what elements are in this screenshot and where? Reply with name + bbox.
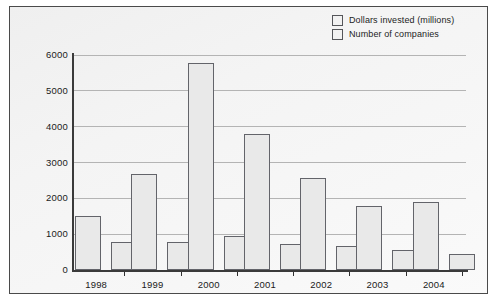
chart-frame: Dollars invested (millions) Number of co… (9, 6, 488, 294)
bar-2000-series1 (188, 63, 214, 270)
y-tick-label: 6000 (16, 49, 68, 60)
bar-2002-series1 (300, 178, 326, 270)
bar-1998-series1 (75, 216, 101, 270)
x-tick-label: 2003 (367, 279, 389, 290)
gridline (72, 126, 466, 127)
bar-2001-series1 (244, 134, 270, 270)
x-tick-label: 1999 (141, 279, 163, 290)
y-tick-label: 1000 (16, 228, 68, 239)
x-axis-tick-labels: 1998199920002001200220032004 (72, 279, 468, 293)
plot-region (72, 49, 466, 271)
chart-figure: Dollars invested (millions) Number of co… (0, 0, 504, 308)
legend-item-number-of-companies: Number of companies (332, 29, 492, 40)
x-tick-label: 2002 (310, 279, 332, 290)
plot-area (72, 55, 466, 270)
bar-2004-series2 (449, 254, 475, 270)
bar-2003-series1 (356, 206, 382, 270)
legend-item-dollars-invested: Dollars invested (millions) (332, 15, 492, 26)
y-tick-label: 4000 (16, 121, 68, 132)
chart-legend: Dollars invested (millions) Number of co… (332, 15, 492, 40)
x-tick-label: 2001 (254, 279, 276, 290)
bar-1999-series1 (131, 174, 157, 270)
legend-item-label: Dollars invested (millions) (349, 15, 454, 26)
y-axis-line (72, 53, 74, 272)
y-tick-label: 3000 (16, 157, 68, 168)
x-tick-label: 2000 (198, 279, 220, 290)
y-tick-label: 0 (16, 264, 68, 275)
y-tick-label: 5000 (16, 85, 68, 96)
x-tick-label: 1998 (85, 279, 107, 290)
x-axis-line (72, 270, 468, 272)
legend-swatch-icon (332, 15, 343, 26)
bar-2004-series1 (413, 202, 439, 270)
legend-item-label: Number of companies (349, 29, 439, 40)
gridline (72, 55, 466, 56)
x-tick-label: 2004 (423, 279, 445, 290)
legend-swatch-icon (332, 29, 343, 40)
y-tick-label: 2000 (16, 192, 68, 203)
y-axis-tick-labels: 0100020003000400050006000 (14, 49, 68, 271)
gridline (72, 90, 466, 91)
